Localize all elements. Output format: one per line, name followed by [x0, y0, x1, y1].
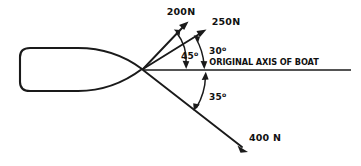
force-label-400n: 400 N	[249, 132, 281, 143]
boat-hull	[20, 48, 142, 91]
angle-arc-35	[193, 72, 208, 111]
angle-label-45-degree: o	[194, 50, 198, 57]
force-label-200n: 200N	[167, 6, 196, 17]
angle-label-35: 35 o	[209, 91, 226, 103]
force-label-250n: 250N	[212, 16, 241, 27]
angle-label-35-value: 35	[209, 92, 222, 102]
angle-label-45: 45 o	[181, 50, 198, 62]
angle-label-30-value: 30	[209, 46, 222, 56]
diagram-canvas: 200N 250N 400 N 45 o 30 o 35 o ORIGINAL …	[0, 0, 361, 166]
angle-label-30: 30 o	[209, 45, 226, 57]
angle-label-45-value: 45	[181, 51, 194, 61]
angle-label-30-degree: o	[222, 45, 226, 52]
angle-label-35-degree: o	[222, 91, 226, 98]
axis-label: ORIGINAL AXIS OF BOAT	[209, 57, 319, 67]
force-diagram: 200N 250N 400 N 45 o 30 o 35 o ORIGINAL …	[0, 0, 361, 166]
force-vector-400n	[143, 70, 248, 153]
